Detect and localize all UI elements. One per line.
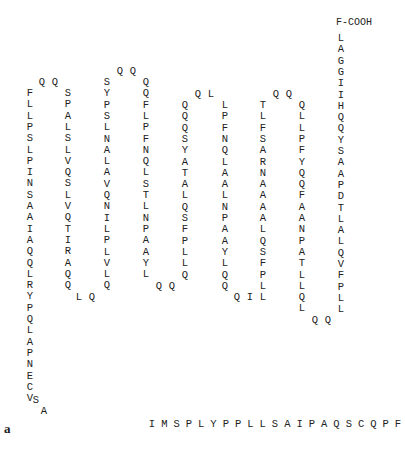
n-tail-residue: P xyxy=(233,419,243,430)
n-tail-residue: A xyxy=(319,419,329,430)
loop1-residue: Q xyxy=(50,77,60,88)
loop2-residue: L xyxy=(74,292,84,303)
n-tail-residue: I xyxy=(295,419,305,430)
n-tail-residue: I xyxy=(147,419,157,430)
n-tail-residue: Q xyxy=(332,419,342,430)
loop6-residue: Q xyxy=(232,292,242,303)
h7-residue: L xyxy=(258,292,268,303)
figure-panel-label: a xyxy=(4,421,11,437)
c-terminus-label: F-COOH xyxy=(336,17,372,28)
tail1-residue: A xyxy=(39,406,49,417)
loop1-residue: Q xyxy=(37,77,47,88)
n-tail-residue: P xyxy=(221,419,231,430)
loop3-residue: Q xyxy=(128,66,138,77)
loop4-residue: Q xyxy=(154,281,164,292)
loop2-residue: Q xyxy=(87,292,97,303)
h4-residue: L xyxy=(141,269,151,280)
tail1-residue: S xyxy=(31,395,41,406)
n-tail-residue: P xyxy=(184,419,194,430)
loop8-residue: Q xyxy=(310,315,320,326)
h6-residue: Q xyxy=(220,281,230,292)
loop4-residue: Q xyxy=(167,281,177,292)
loop6-residue: I xyxy=(245,292,255,303)
h2-residue: Q xyxy=(63,280,73,291)
h8-residue: L xyxy=(297,303,307,314)
n-tail-residue: A xyxy=(282,419,292,430)
n-tail-residue: S xyxy=(344,419,354,430)
n-tail-residue: M xyxy=(159,419,169,430)
n-tail-residue: S xyxy=(172,419,182,430)
h9-residue: L xyxy=(336,304,346,315)
loop7-residue: Q xyxy=(271,89,281,100)
loop5-residue: L xyxy=(206,89,216,100)
n-tail-residue: S xyxy=(270,419,280,430)
h5-residue: Q xyxy=(180,270,190,281)
h3-residue: Q xyxy=(102,280,112,291)
n-tail-residue: P xyxy=(381,419,391,430)
n-tail-residue: Y xyxy=(209,419,219,430)
n-tail-residue: C xyxy=(356,419,366,430)
loop5-residue: Q xyxy=(193,89,203,100)
n-tail-residue: Q xyxy=(368,419,378,430)
n-tail-residue: P xyxy=(307,419,317,430)
n-tail-residue: L xyxy=(258,419,268,430)
loop8-residue: Q xyxy=(323,315,333,326)
n-tail-residue: F xyxy=(393,419,403,430)
n-tail-residue: L xyxy=(245,419,255,430)
loop3-residue: Q xyxy=(115,66,125,77)
n-tail-residue: L xyxy=(196,419,206,430)
loop7-residue: Q xyxy=(284,89,294,100)
